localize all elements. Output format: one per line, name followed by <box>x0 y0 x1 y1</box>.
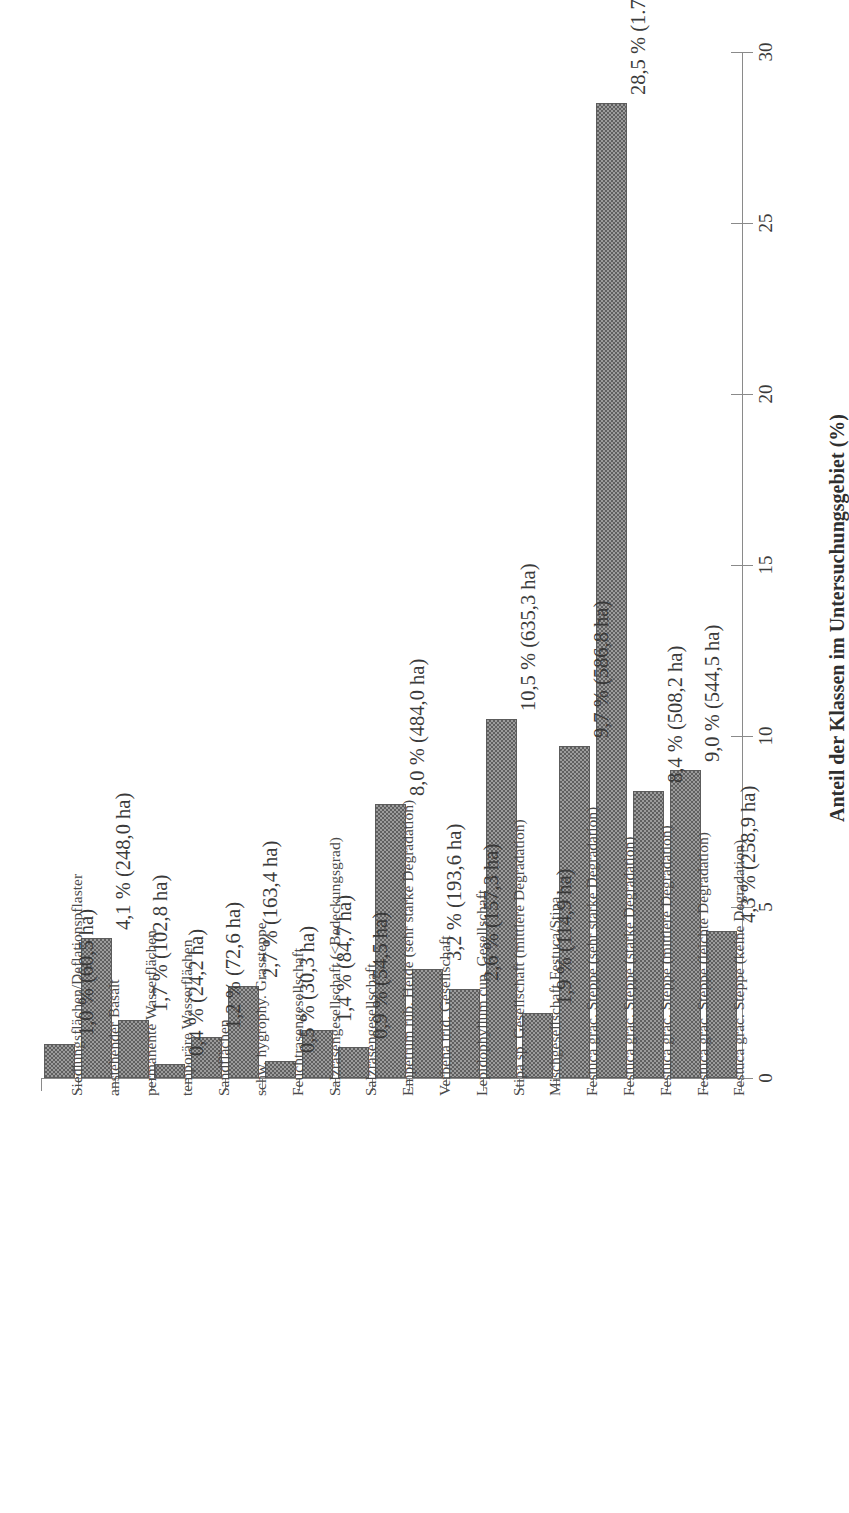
value-axis-tick <box>731 52 753 53</box>
value-axis-tick <box>731 736 753 737</box>
category-axis-label: Festuca grac. Steppe (mittlere Degradati… <box>658 825 674 1096</box>
category-axis-label: permanente Wasserflächen <box>143 930 159 1096</box>
value-axis-tick <box>731 565 753 566</box>
category-axis-label: Mischgesellschaft Festuca/Stipa <box>547 897 563 1096</box>
value-axis-tick <box>731 223 753 224</box>
category-axis-label: Festuca grac. Steppe (sehr starke Degrad… <box>584 807 600 1096</box>
bar-value-label: 8,0 % (484,0 ha) <box>407 659 428 796</box>
value-axis-tick-label: 15 <box>756 543 775 587</box>
value-axis-tick <box>731 394 753 395</box>
category-axis-label: Empetrum rub. Heide (sehr starke Degrada… <box>400 800 416 1096</box>
category-axis-label: Salzrasengesellschaft (<Bedeckungsgrad) <box>327 837 343 1096</box>
bar-value-label: 9,7 % (586,8 ha) <box>591 601 612 738</box>
category-axis-label: Festuca grac. Steppe (leichte Degradatio… <box>695 832 711 1096</box>
bar-value-label: 4,1 % (248,0 ha) <box>113 793 134 930</box>
category-axis-label: temporäre Wasserflächen <box>179 940 195 1096</box>
bar-value-label: 28,5 % (1.724,3 ha) <box>628 0 649 95</box>
value-axis-tick-label: 25 <box>756 201 775 245</box>
category-axis-label: Lepidophyllum cup. Gesellschaft <box>474 890 490 1096</box>
category-axis-label: schw. hygrophy. Grassteppe <box>253 922 269 1096</box>
bar-value-label: 8,4 % (508,2 ha) <box>665 646 686 783</box>
category-axis-label: anstehender Basalt <box>106 979 122 1096</box>
category-axis-label: Festuca grac. Steppe (starke Degradation… <box>621 836 637 1096</box>
value-axis-tick-label: 0 <box>756 1056 775 1100</box>
value-axis-tick-label: 20 <box>756 372 775 416</box>
category-axis-label: Salzrasengesellschaft <box>363 963 379 1096</box>
value-axis-tick-label: 30 <box>756 30 775 74</box>
bar-value-label: 1,2 % (72,6 ha) <box>223 902 244 1029</box>
value-axis-tick-label: 10 <box>756 714 775 758</box>
category-axis-label: Verbena trid. Gesellschaft <box>437 935 453 1096</box>
category-axis-label: Feuchtrasengesellschaft <box>290 948 306 1096</box>
category-axis-label: Siedlungsflächen/Deflationspflaster <box>69 874 85 1096</box>
category-axis-label: Sandflächen <box>216 1019 232 1096</box>
category-axis-label: Stipa sp. Gesellschaft (mittlere Degrada… <box>511 819 527 1096</box>
bar-value-label: 10,5 % (635,3 ha) <box>518 563 539 710</box>
bar-value-label: 9,0 % (544,5 ha) <box>702 625 723 762</box>
category-axis-tick <box>41 1078 42 1091</box>
value-axis-title: Anteil der Klassen im Untersuchungsgebie… <box>826 414 849 822</box>
category-axis-label: Festuca grac. Steppe (keine Degradation) <box>731 840 747 1096</box>
